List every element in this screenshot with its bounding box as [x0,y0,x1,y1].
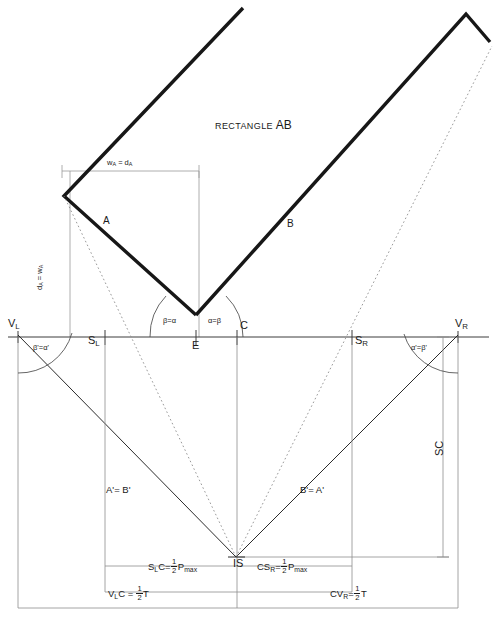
label-chord-right: B'= A' [300,485,324,495]
cvr-var: T [361,588,367,599]
label-angle-e-left: β=α [163,317,176,325]
label-width-a: wA = dA [107,159,132,168]
csr-var-sub: max [294,566,307,573]
depth-a-w: w [35,268,44,273]
label-eq-csr: CSR=12Pmax [257,558,307,574]
label-vertex-right: VR [455,318,468,331]
vlc-fraction: 12 [136,585,142,601]
csr-fraction: 12 [281,558,287,574]
vlc-eq: = [128,588,134,599]
vlc-tail: C [118,588,125,599]
csr-lead: CS [257,561,270,572]
cvr-fraction: 12 [354,585,360,601]
depth-a-w-sub: A [38,265,44,269]
cvr-lead: CV [330,588,343,599]
label-station-right: SR [355,335,368,348]
width-a-eq: = [118,158,122,167]
sr-sub: R [362,339,368,348]
sl-sub: L [95,339,99,348]
label-angle-vl: β'=α' [33,344,49,352]
label-point-is: IS [233,558,243,569]
page-title: RECTANGLE AB [215,119,292,131]
label-depth-a: dA = wA [36,265,45,290]
label-segment-a: A [103,216,110,226]
chord-lines [18,335,458,557]
dotted-ray-is-to-apex-a [64,196,236,557]
geometric-construction-svg [0,0,497,620]
cvr-den: 2 [354,594,360,602]
arc-angle-vr [404,334,458,373]
label-point-e: E [192,340,199,351]
thick-segment-a [64,8,243,315]
chord-vl-is [18,335,236,557]
label-station-left: SL [88,335,100,348]
slc-fraction: 12 [171,558,177,574]
label-eq-vlc: VLC = 12T [108,585,149,601]
label-sc: SC [434,441,445,456]
vl-sub: L [15,322,19,331]
depth-a-d-sub: A [38,282,44,286]
vlc-den: 2 [136,594,142,602]
label-eq-slc: SLC=12Pmax [148,558,197,574]
angle-arcs [18,296,458,373]
construction-lines [62,165,199,337]
depth-a-eq: = [35,276,44,280]
cvr-eq: = [348,588,354,599]
label-segment-b: B [287,219,294,229]
slc-den: 2 [171,567,177,575]
label-angle-vr: α'=β' [411,344,427,352]
title-prefix: RECTANGLE [215,121,273,131]
depth-a-d: d [35,286,44,290]
vr-sub: R [462,322,468,331]
label-angle-e-right: α=β [208,317,221,325]
slc-tail: C [158,561,165,572]
label-vertex-left: VL [8,318,20,331]
label-point-c: C [240,320,248,331]
csr-eq: = [275,561,281,572]
csr-den: 2 [281,567,287,575]
slc-eq: = [165,561,171,572]
arc-angle-vl [18,333,72,373]
diagram-canvas: RECTANGLE AB A B wA = dA dA = wA VL VR E… [0,0,497,620]
vlc-var: T [143,588,149,599]
chord-vr-is [236,335,458,557]
label-chord-left: A'= B' [106,485,131,495]
label-eq-cvr: CVR=12T [330,585,367,601]
title-main: AB [276,118,292,132]
width-a-w-sub: A [112,161,116,167]
thick-segment-b [196,14,490,315]
width-a-d-sub: A [129,161,133,167]
slc-var-sub: max [184,566,197,573]
